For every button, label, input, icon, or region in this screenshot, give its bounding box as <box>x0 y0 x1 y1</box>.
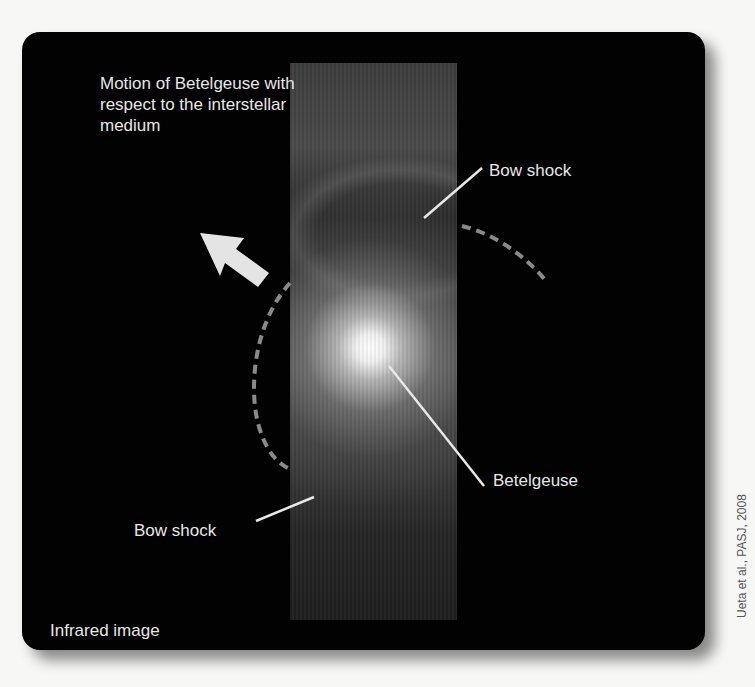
bow-shock-label-top: Bow shock <box>489 160 571 181</box>
image-type-label: Infrared image <box>50 620 160 641</box>
bow-shock-arc-right <box>462 226 547 282</box>
leader-line-betelgeuse <box>389 366 484 486</box>
bow-shock-label-bottom: Bow shock <box>134 520 216 541</box>
leader-line-bow-shock-bottom <box>256 497 314 521</box>
betelgeuse-label: Betelgeuse <box>493 470 578 491</box>
leader-line-bow-shock-top <box>424 168 482 218</box>
image-credit: Ueta et al., PASJ, 2008 <box>735 494 749 618</box>
bow-shock-arc-left <box>254 283 292 470</box>
arrow-up-left-icon <box>200 233 269 287</box>
motion-label: Motion of Betelgeuse with respect to the… <box>100 73 300 136</box>
